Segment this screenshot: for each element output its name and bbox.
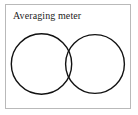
left-dial-circle (11, 34, 71, 94)
right-dial-circle (66, 35, 125, 94)
figure-label: Averaging meter (13, 10, 81, 21)
figure-screenshot: Averaging meter (0, 0, 138, 115)
